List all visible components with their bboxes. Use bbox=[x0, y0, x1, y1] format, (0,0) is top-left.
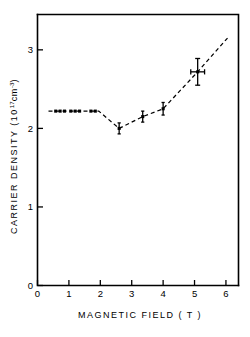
data-point-11 bbox=[196, 70, 199, 73]
data-point-1 bbox=[59, 110, 62, 113]
data-point-10 bbox=[162, 107, 165, 110]
error-bars bbox=[118, 58, 205, 133]
y-axis-title-group: CARRIER DENSITY (1017cm-3) bbox=[8, 78, 19, 234]
x-tick-label-1: 1 bbox=[66, 288, 71, 299]
carrier-density-chart: 01234560123 MAGNETIC FIELD ( T ) CARRIER… bbox=[0, 0, 250, 337]
data-point-7 bbox=[94, 110, 97, 113]
data-point-0 bbox=[54, 110, 57, 113]
data-point-9 bbox=[141, 115, 144, 118]
trend-line-path bbox=[48, 38, 227, 128]
y-tick-label-1: 1 bbox=[28, 201, 33, 212]
x-tick-label-0: 0 bbox=[35, 288, 40, 299]
data-point-3 bbox=[69, 110, 72, 113]
x-axis-title-text: MAGNETIC FIELD ( T ) bbox=[78, 310, 202, 320]
figure-container: 01234560123 MAGNETIC FIELD ( T ) CARRIER… bbox=[0, 0, 250, 337]
y-axis-title: CARRIER DENSITY (1017cm-3) bbox=[8, 78, 19, 234]
x-axis-title: MAGNETIC FIELD ( T ) bbox=[78, 310, 202, 320]
x-tick-label-6: 6 bbox=[223, 288, 228, 299]
plot-axes bbox=[38, 15, 239, 286]
data-markers bbox=[54, 70, 199, 130]
y-tick-label-3: 3 bbox=[28, 44, 33, 55]
y-tick-label-2: 2 bbox=[28, 123, 33, 134]
axis-spine-top-right bbox=[38, 15, 239, 286]
data-point-5 bbox=[78, 110, 81, 113]
data-point-6 bbox=[89, 110, 92, 113]
axis-tick-labels: 01234560123 bbox=[28, 44, 229, 299]
axis-spine-left-bottom bbox=[38, 15, 239, 286]
x-tick-label-3: 3 bbox=[129, 288, 134, 299]
data-point-4 bbox=[74, 110, 77, 113]
y-tick-label-0: 0 bbox=[28, 280, 33, 291]
x-tick-label-5: 5 bbox=[192, 288, 197, 299]
data-point-2 bbox=[63, 110, 66, 113]
trend-line-dashed bbox=[48, 38, 227, 128]
y-axis-title-text: CARRIER DENSITY (1017cm-3) bbox=[8, 78, 19, 234]
x-tick-label-4: 4 bbox=[160, 288, 165, 299]
x-tick-label-2: 2 bbox=[98, 288, 103, 299]
data-point-8 bbox=[118, 127, 121, 130]
